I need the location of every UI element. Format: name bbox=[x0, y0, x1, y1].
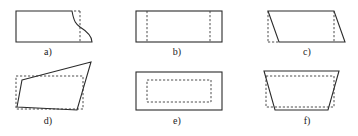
figure-panels: a) b) c) d) e) f) bbox=[0, 0, 358, 136]
panel-e: e) bbox=[136, 72, 222, 127]
shape-f-outline bbox=[264, 71, 339, 110]
label-a: a) bbox=[44, 46, 52, 58]
label-e: e) bbox=[173, 115, 181, 127]
shape-a-outline bbox=[16, 11, 92, 42]
label-d: d) bbox=[44, 115, 52, 127]
label-c: c) bbox=[303, 46, 311, 58]
shape-e-dash-rect bbox=[147, 80, 211, 102]
shape-c-outline bbox=[268, 11, 345, 42]
panel-c: c) bbox=[268, 11, 345, 58]
panel-a: a) bbox=[16, 11, 92, 58]
panel-b: b) bbox=[136, 11, 222, 58]
shape-d-outline bbox=[17, 62, 91, 110]
label-f: f) bbox=[304, 115, 311, 127]
shape-d-dash-rect bbox=[16, 76, 83, 109]
label-b: b) bbox=[173, 46, 181, 58]
shape-e-outline bbox=[136, 72, 222, 110]
panel-f: f) bbox=[264, 71, 339, 127]
shape-f-dash-rect bbox=[266, 76, 334, 107]
panel-d: d) bbox=[16, 62, 91, 127]
shape-b-outline bbox=[136, 11, 222, 42]
